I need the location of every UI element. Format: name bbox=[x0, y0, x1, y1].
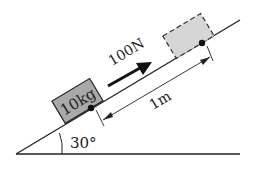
start-point-dot bbox=[88, 105, 94, 111]
angle-label: 30° bbox=[70, 134, 97, 152]
distance-label: 1m bbox=[146, 87, 173, 112]
mass-block: 10kg bbox=[52, 79, 103, 124]
ghost-block bbox=[163, 14, 214, 59]
end-point-dot bbox=[199, 40, 205, 46]
angle-arc bbox=[60, 133, 63, 154]
inclined-plane-diagram: 30° 10kg 100N 1m bbox=[0, 0, 264, 173]
dimension-extension-start bbox=[96, 110, 104, 126]
